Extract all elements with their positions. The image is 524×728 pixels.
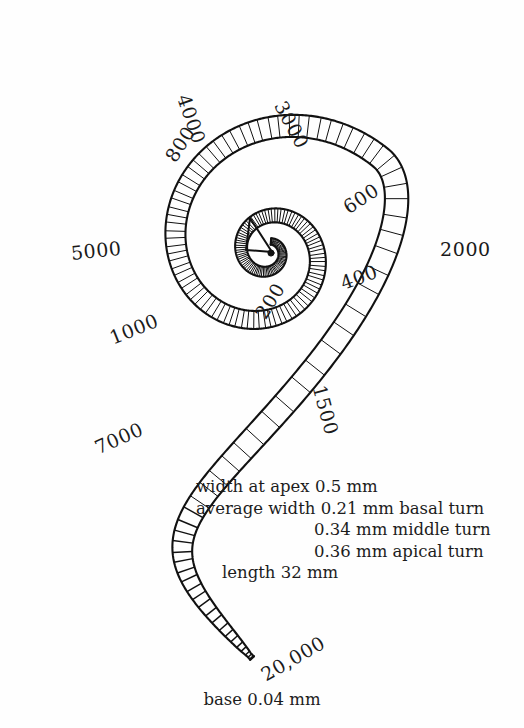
measure-middle-turn: 0.34 mm middle turn xyxy=(196,519,516,541)
measure-width-apex: width at apex 0.5 mm xyxy=(196,476,516,498)
cochlea-spiral-drawing xyxy=(0,0,524,728)
base-caption: base 0.04 mm xyxy=(0,690,524,709)
frequency-label-5000: 5000 xyxy=(70,239,122,263)
measurements-block: width at apex 0.5 mm average width 0.21 … xyxy=(196,476,516,584)
measure-length: length 32 mm xyxy=(196,562,516,584)
cochlea-figure: 2004006008001000150020003000400050007000… xyxy=(0,0,524,728)
measure-apical-turn: 0.36 mm apical turn xyxy=(196,541,516,563)
measure-average-basal: average width 0.21 mm basal turn xyxy=(196,498,516,520)
frequency-label-2000: 2000 xyxy=(440,240,491,259)
